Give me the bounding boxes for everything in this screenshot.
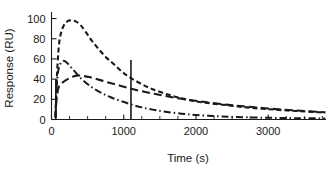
y-axis-tick-labels: 020406080100	[27, 13, 45, 126]
x-axis-title: Time (s)	[167, 152, 209, 164]
y-tick-label: 60	[33, 53, 45, 65]
y-axis-title: Response (RU)	[3, 28, 15, 107]
x-tick-label: 2000	[184, 125, 208, 137]
x-tick-label: 1000	[111, 125, 135, 137]
x-axis-tick-labels: 0100020003000	[48, 125, 280, 137]
curve-high-concentration	[55, 20, 325, 116]
y-tick-label: 100	[27, 13, 45, 25]
y-tick-label: 0	[39, 114, 45, 126]
y-tick-label: 80	[33, 33, 45, 45]
chart-canvas: 0100020003000 020406080100 Time (s) Resp…	[0, 0, 331, 172]
x-tick-label: 3000	[256, 125, 280, 137]
y-tick-label: 40	[33, 73, 45, 85]
sensorgram-figure: 0100020003000 020406080100 Time (s) Resp…	[0, 0, 331, 172]
x-tick-label: 0	[48, 125, 54, 137]
y-tick-label: 20	[33, 93, 45, 105]
